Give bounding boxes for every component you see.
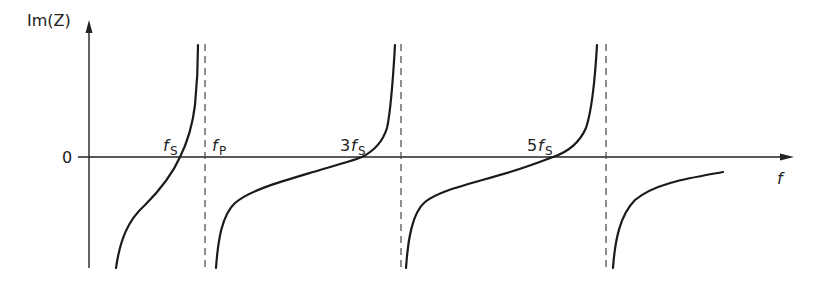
svg-text:5: 5: [527, 136, 537, 155]
marker-3fs: 3 f S: [340, 136, 366, 158]
origin-label: 0: [62, 148, 72, 167]
svg-text:S: S: [170, 144, 178, 158]
svg-text:P: P: [219, 144, 226, 158]
svg-text:S: S: [358, 144, 366, 158]
svg-text:3: 3: [340, 136, 350, 155]
impedance-diagram: Im(Z) 0 f f S f P 3 f S 5 f S: [0, 0, 814, 284]
y-axis-arrowhead-icon: [86, 20, 93, 33]
marker-5fs: 5 f S: [527, 136, 553, 158]
svg-text:S: S: [545, 144, 553, 158]
marker-fp: f P: [212, 136, 226, 158]
curve-branch-4: [613, 172, 723, 268]
marker-fs: f S: [163, 136, 178, 158]
y-axis-label: Im(Z): [27, 11, 71, 30]
x-axis-label: f: [777, 169, 785, 188]
x-axis-arrowhead-icon: [780, 154, 794, 161]
